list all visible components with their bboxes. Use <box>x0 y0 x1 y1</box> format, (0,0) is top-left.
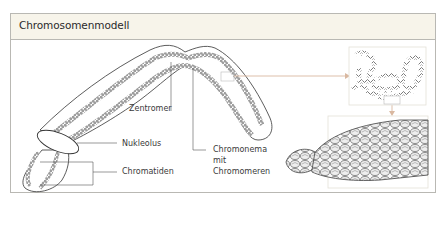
label-chromonema-2: mit <box>213 156 226 167</box>
coil-inset <box>349 47 426 105</box>
label-chromonema-1: Chromonema <box>213 145 267 156</box>
fiber-inset <box>286 116 428 188</box>
label-chromatids: Chromatiden <box>122 167 174 178</box>
label-chromonema-3: Chromomeren <box>213 167 270 178</box>
label-centromere: Zentromer <box>129 104 172 115</box>
label-nucleolus: Nukleolus <box>122 139 161 150</box>
